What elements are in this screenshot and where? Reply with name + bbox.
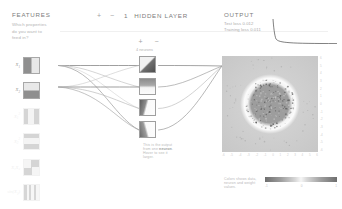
training-loss-value: Training loss 0.011 xyxy=(224,27,261,33)
y-tick-label: -6 xyxy=(320,148,323,152)
y-tick-label: 2 xyxy=(320,87,323,91)
y-tick-label: 5 xyxy=(320,64,323,68)
data-points xyxy=(222,56,318,152)
neuron-output-port xyxy=(155,85,156,87)
y-tick-label: 1 xyxy=(320,94,323,98)
neuron-output-port xyxy=(155,128,156,130)
x-tick-label: -1 xyxy=(264,153,267,157)
feature-output-port xyxy=(39,64,40,66)
feature-label: X1 xyxy=(4,62,23,69)
output-heatmap[interactable] xyxy=(222,56,318,152)
heatmap-y-axis: -6-5-4-3-2-10123456 xyxy=(320,56,323,152)
x-tick-label: 1 xyxy=(280,153,282,157)
x-tick-label: -6 xyxy=(222,153,225,157)
feature-row[interactable]: sin(X2) xyxy=(4,207,60,209)
y-tick-label: -4 xyxy=(320,133,323,137)
features-description: Which properties do you want to feed in? xyxy=(12,22,52,42)
legend-mid: 0 xyxy=(301,184,303,188)
remove-layer-button[interactable]: − xyxy=(109,12,116,19)
hidden-layer-header: + − 1 HIDDEN LAYER xyxy=(96,12,188,19)
output-panel: OUTPUT Test loss 0.012 Training loss 0.0… xyxy=(224,11,261,33)
feature-thumbnail[interactable] xyxy=(23,133,40,150)
feature-row[interactable]: sin(X1) xyxy=(4,182,60,204)
color-legend: Colors shows data, neuron and weight val… xyxy=(224,177,337,189)
legend-gradient-bar xyxy=(265,177,337,182)
hidden-neuron-4[interactable] xyxy=(139,121,156,138)
y-tick-label: -1 xyxy=(320,110,323,114)
hidden-neuron-1[interactable] xyxy=(139,56,156,73)
feature-list: X1X2X12X22X₁X₂sin(X1)sin(X2) xyxy=(4,54,60,209)
feature-thumbnail[interactable] xyxy=(23,57,40,74)
output-title: OUTPUT xyxy=(224,11,261,18)
feature-row[interactable]: X22 xyxy=(4,131,60,153)
heatmap-x-axis: -6-5-4-3-2-10123456 xyxy=(222,153,318,157)
hidden-neuron-3[interactable] xyxy=(139,99,156,116)
add-layer-button[interactable]: + xyxy=(96,12,103,19)
x-tick-label: 6 xyxy=(316,153,318,157)
remove-neuron-button[interactable]: − xyxy=(153,38,160,45)
feature-row[interactable]: X12 xyxy=(4,105,60,127)
x-tick-label: -3 xyxy=(247,153,250,157)
x-tick-label: 2 xyxy=(287,153,289,157)
y-tick-label: -5 xyxy=(320,140,323,144)
x-tick-label: 0 xyxy=(272,153,274,157)
neuron-controls: + − xyxy=(137,38,160,45)
y-tick-label: 4 xyxy=(320,71,323,75)
hidden-layer-count: 1 xyxy=(124,12,128,19)
x-tick-label: 5 xyxy=(309,153,311,157)
y-tick-label: -3 xyxy=(320,125,323,129)
y-tick-label: 0 xyxy=(320,102,323,106)
legend-description: Colors shows data, neuron and weight val… xyxy=(224,177,258,189)
loss-curve-chart xyxy=(270,18,338,44)
feature-output-port xyxy=(39,89,40,91)
feature-thumbnail[interactable] xyxy=(23,108,40,125)
hidden-layer-word: HIDDEN LAYER xyxy=(134,12,188,19)
x-tick-label: -2 xyxy=(255,153,258,157)
feature-label: sin(X1) xyxy=(4,189,23,196)
feature-row[interactable]: X1 xyxy=(4,54,60,76)
feature-label: X12 xyxy=(4,112,23,120)
feature-thumbnail[interactable] xyxy=(23,159,40,176)
add-neuron-button[interactable]: + xyxy=(137,38,144,45)
legend-max: 1 xyxy=(335,184,337,188)
feature-label: X₁X₂ xyxy=(4,165,23,170)
playground-stage: FEATURES Which properties do you want to… xyxy=(0,0,342,209)
neuron-hint: This is the output from one neuron. Hove… xyxy=(143,143,179,159)
x-tick-label: 4 xyxy=(302,153,304,157)
y-tick-label: 6 xyxy=(320,56,323,60)
feature-thumbnail[interactable] xyxy=(23,82,40,99)
feature-label: X22 xyxy=(4,137,23,145)
y-tick-label: 3 xyxy=(320,79,323,83)
loss-readout: Test loss 0.012 Training loss 0.011 xyxy=(224,21,261,33)
features-title: FEATURES xyxy=(12,11,60,18)
x-tick-label: -5 xyxy=(230,153,233,157)
features-panel: FEATURES Which properties do you want to… xyxy=(12,11,60,42)
feature-label: X2 xyxy=(4,87,23,94)
neuron-count-label: 4 neurons xyxy=(136,48,153,52)
neuron-output-port xyxy=(155,63,156,65)
legend-min: -1 xyxy=(265,184,268,188)
legend-gradient-wrap: -1 0 1 xyxy=(265,177,337,188)
y-tick-label: -2 xyxy=(320,117,323,121)
legend-scale: -1 0 1 xyxy=(265,184,337,188)
feature-row[interactable]: X₁X₂ xyxy=(4,156,60,178)
hidden-neuron-2[interactable] xyxy=(139,78,156,95)
feature-thumbnail[interactable] xyxy=(23,184,40,201)
feature-row[interactable]: X2 xyxy=(4,80,60,102)
neuron-output-port xyxy=(155,106,156,108)
x-tick-label: 3 xyxy=(294,153,296,157)
x-tick-label: -4 xyxy=(239,153,242,157)
